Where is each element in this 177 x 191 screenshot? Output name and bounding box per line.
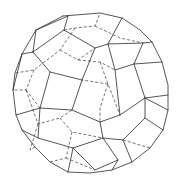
visible-edge [82, 48, 95, 80]
hidden-edge [95, 26, 143, 43]
visible-edge [100, 98, 145, 122]
visible-edge [145, 98, 168, 110]
hidden-edges [13, 13, 150, 170]
visible-edge [22, 52, 33, 54]
visible-edge [38, 122, 103, 148]
hidden-edge [60, 118, 103, 138]
visible-edge [40, 72, 50, 108]
hidden-edge [123, 140, 150, 148]
visible-edge [13, 13, 168, 173]
hidden-edge [100, 84, 108, 122]
visible-edge [33, 52, 82, 80]
visible-edge [72, 80, 82, 110]
visible-edge [68, 148, 73, 172]
visible-edge [16, 108, 100, 122]
visible-edge [73, 148, 118, 170]
visible-edge [36, 16, 68, 30]
hidden-edge [82, 80, 108, 84]
hidden-edge [26, 90, 72, 124]
visible-edges [13, 13, 168, 173]
hidden-edge [26, 90, 40, 108]
hidden-edge [60, 48, 95, 60]
visible-edge [123, 140, 132, 162]
polyhedron-figure [0, 0, 177, 191]
hidden-edge [78, 60, 115, 70]
visible-edge [108, 42, 152, 44]
visible-edge [134, 62, 162, 64]
visible-edge [145, 118, 163, 130]
visible-edge [33, 16, 68, 52]
visible-edge [134, 64, 168, 98]
visible-edge [115, 70, 120, 115]
visible-edge [108, 43, 143, 70]
